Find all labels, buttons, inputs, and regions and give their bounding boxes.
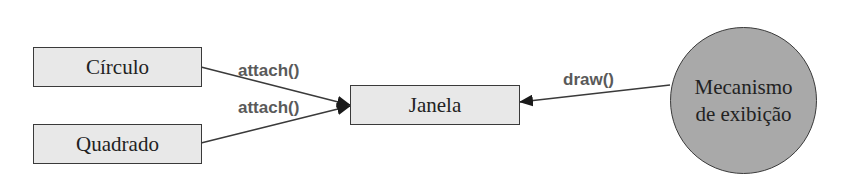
node-janela: Janela — [350, 85, 520, 125]
node-circulo-label: Círculo — [86, 55, 149, 80]
node-janela-label: Janela — [409, 93, 461, 118]
node-mecanismo-label-line1: Mecanismo — [695, 74, 793, 100]
node-quadrado: Quadrado — [33, 124, 202, 164]
edge-label-draw: draw() — [563, 70, 614, 90]
node-mecanismo-label-line2: de exibição — [695, 101, 791, 127]
diagram-canvas: Círculo Quadrado Janela Mecanismo de exi… — [0, 0, 845, 178]
edge-label-attach-1: attach() — [238, 61, 299, 81]
edge-label-attach-2: attach() — [238, 98, 299, 118]
node-quadrado-label: Quadrado — [76, 132, 159, 157]
node-mecanismo-de-exibicao: Mecanismo de exibição — [670, 27, 817, 174]
node-circulo: Círculo — [33, 47, 202, 87]
